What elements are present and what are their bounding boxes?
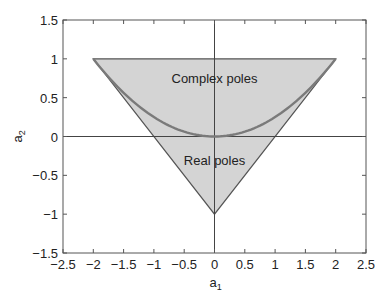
- y-tick-label: −1.5: [32, 246, 58, 261]
- y-tick-label: 1: [51, 52, 58, 67]
- y-axis-label: a2: [10, 130, 27, 142]
- real-poles-label: Real poles: [184, 153, 246, 168]
- x-tick-label: 0.5: [236, 257, 254, 272]
- y-tick-label: 0.5: [40, 91, 58, 106]
- complex-poles-label: Complex poles: [172, 71, 258, 86]
- y-tick-label: 0: [51, 130, 58, 145]
- x-tick-label: 1.5: [296, 257, 314, 272]
- y-tick-label: −1: [43, 207, 58, 222]
- x-tick-label: −1: [146, 257, 161, 272]
- stability-triangle-chart: −2.5−2−1.5−1−0.500.511.522.5−1.5−1−0.500…: [0, 0, 388, 297]
- x-tick-label: 0: [211, 257, 218, 272]
- x-tick-label: 2.5: [357, 257, 375, 272]
- y-tick-label: −0.5: [32, 168, 58, 183]
- y-tick-label: 1.5: [40, 13, 58, 28]
- x-axis-label: a1: [210, 275, 222, 292]
- x-tick-label: 1: [271, 257, 278, 272]
- x-tick-label: 2: [332, 257, 339, 272]
- x-tick-label: −0.5: [171, 257, 197, 272]
- x-tick-label: −2: [86, 257, 101, 272]
- x-tick-label: −1.5: [111, 257, 137, 272]
